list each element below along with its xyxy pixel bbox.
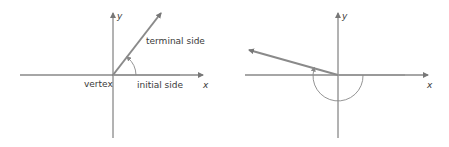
terminal-side-label: terminal side <box>146 36 205 46</box>
y-axis-label: y <box>341 11 348 21</box>
terminal-side-ray <box>249 50 338 75</box>
angle-arc <box>128 58 136 75</box>
figure-positive-angle: y terminal side vertex initial side x <box>20 11 209 138</box>
x-axis-label: x <box>426 80 433 90</box>
figure-negative-angle: y x <box>245 11 433 138</box>
initial-side-label: initial side <box>137 80 184 90</box>
angle-diagrams: y terminal side vertex initial side x y … <box>0 0 449 147</box>
vertex-label: vertex <box>84 79 113 89</box>
y-axis-label: y <box>116 11 123 21</box>
x-axis-label: x <box>202 80 209 90</box>
